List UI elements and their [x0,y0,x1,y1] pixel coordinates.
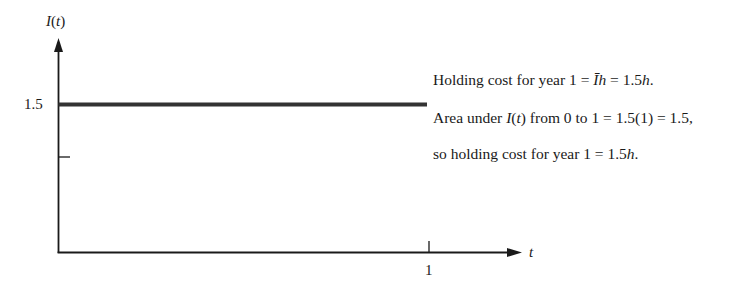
annotation-text: so holding cost for year 1 = 1.5 [433,145,627,162]
annotation-text: . [635,145,639,162]
annotation-holding-cost-conclusion: so holding cost for year 1 = 1.5h. [433,146,638,162]
y-axis-arrow-icon [54,38,63,52]
annotation-area-under-curve: Area under I(t) from 0 to 1 = 1.5(1) = 1… [433,110,693,126]
annotation-text: Area under [433,109,506,126]
x-axis-label: t [529,245,533,260]
inventory-level-plot [0,0,747,288]
y-tick-label-1-5: 1.5 [24,97,43,112]
annotation-holding-cost-formula: Holding cost for year 1 = Īh = 1.5h. [433,72,654,88]
annotation-text: Holding cost for year 1 = [433,71,593,88]
y-axis-label-paren-close: ) [60,13,65,29]
holding-cost-symbol: h [627,145,635,162]
annotation-text: . [650,71,654,88]
annotation-text: = 1.5 [606,71,642,88]
annotation-text: ) from 0 to 1 = 1.5(1) = 1.5, [521,109,693,126]
y-axis-label: I(t) [46,14,65,29]
x-axis-arrow-icon [507,248,522,257]
holding-cost-symbol: h [642,71,650,88]
x-tick-label-1: 1 [425,263,433,278]
x-axis-label-t: t [529,244,533,260]
